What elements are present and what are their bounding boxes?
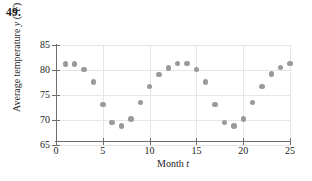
x-axis-label-text: Month xyxy=(157,158,184,169)
scatter-chart: Average temperature y (°F) Month t 65707… xyxy=(0,0,312,181)
data-point xyxy=(250,100,255,105)
y-axis-tick xyxy=(52,95,60,96)
data-point xyxy=(63,61,68,66)
data-point xyxy=(212,102,217,107)
x-axis-tick-label: 25 xyxy=(278,145,302,156)
x-axis-label-variable: t xyxy=(186,158,189,169)
y-axis-tick xyxy=(52,45,60,46)
x-axis-tick-label: 15 xyxy=(184,145,208,156)
data-point xyxy=(269,71,274,76)
x-axis-label: Month t xyxy=(56,158,290,169)
data-point xyxy=(287,61,292,66)
data-point xyxy=(194,67,199,72)
y-axis-tick-label: 80 xyxy=(24,65,50,75)
x-axis-tick-label: 5 xyxy=(91,145,115,156)
data-point xyxy=(166,65,171,70)
gridline-vertical xyxy=(103,45,104,145)
data-point xyxy=(147,84,152,89)
data-point xyxy=(109,120,114,125)
y-axis-tick-label: 70 xyxy=(24,115,50,125)
plot-area xyxy=(56,45,290,145)
figure-page: 49. Average temperature y (°F) Month t 6… xyxy=(0,0,312,181)
data-point xyxy=(100,102,105,107)
data-point xyxy=(184,61,189,66)
data-point xyxy=(91,79,96,84)
x-axis-tick xyxy=(150,138,151,145)
x-axis-tick xyxy=(103,138,104,145)
gridline-horizontal xyxy=(56,70,290,71)
gridline-horizontal xyxy=(56,45,290,46)
y-axis-tick-label: 75 xyxy=(24,90,50,100)
data-point xyxy=(72,61,77,66)
x-axis-tick xyxy=(56,138,57,145)
y-axis-tick xyxy=(52,120,60,121)
x-axis-tick xyxy=(290,138,291,145)
data-point xyxy=(175,61,180,66)
gridline-horizontal xyxy=(56,95,290,96)
y-axis-tick xyxy=(52,70,60,71)
x-axis-tick xyxy=(196,138,197,145)
x-axis-line xyxy=(55,141,291,142)
x-axis-tick-label: 20 xyxy=(231,145,255,156)
gridline-horizontal xyxy=(56,120,290,121)
data-point xyxy=(203,79,208,84)
data-point xyxy=(241,116,246,121)
x-axis-tick-label: 0 xyxy=(44,145,68,156)
data-point xyxy=(81,67,86,72)
gridline-vertical xyxy=(196,45,197,145)
gridline-vertical xyxy=(150,45,151,145)
y-axis-line xyxy=(56,44,57,142)
data-point xyxy=(222,120,227,125)
y-axis-tick-label: 85 xyxy=(24,40,50,50)
x-axis-tick xyxy=(243,138,244,145)
data-point xyxy=(128,116,133,121)
data-point xyxy=(156,72,161,77)
data-point xyxy=(231,123,236,128)
data-point xyxy=(259,84,264,89)
data-point xyxy=(119,123,124,128)
gridline-vertical xyxy=(243,45,244,145)
x-axis-tick-label: 10 xyxy=(138,145,162,156)
data-point xyxy=(138,100,143,105)
